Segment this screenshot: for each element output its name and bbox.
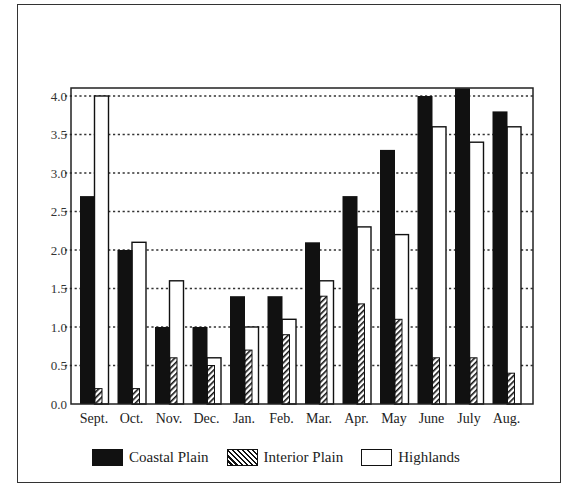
bar-coastal <box>493 111 508 404</box>
y-tick-label: 0.0 <box>51 397 67 412</box>
bar-highlands <box>95 96 109 404</box>
bar-group <box>305 242 334 404</box>
x-tick-label: May <box>381 411 407 426</box>
bar-group <box>80 96 109 404</box>
bar-highlands <box>132 242 146 404</box>
bar-interior <box>433 358 440 404</box>
x-axis-labels: Sept.Oct.Nov.Dec.Jan.Feb.Mar.Apr.MayJune… <box>80 411 521 426</box>
bar-interior <box>208 366 215 405</box>
bar-coastal <box>268 296 283 404</box>
bar-interior <box>283 335 290 404</box>
y-tick-label: 2.5 <box>51 204 67 219</box>
y-tick-label: 4.0 <box>51 89 67 104</box>
bar-coastal <box>305 242 320 404</box>
legend-swatch-highlands <box>361 449 392 466</box>
bar-coastal <box>455 88 470 404</box>
bar-group <box>155 281 184 404</box>
legend-item-highlands: Highlands <box>361 449 460 466</box>
bar-coastal <box>155 327 170 404</box>
legend-label-interior: Interior Plain <box>264 449 344 466</box>
x-tick-label: Aug. <box>493 411 521 426</box>
bar-interior <box>245 350 252 404</box>
x-tick-label: Feb. <box>269 411 294 426</box>
bar-group <box>418 96 447 404</box>
bar-highlands <box>507 127 521 404</box>
bar-interior <box>508 373 515 404</box>
bar-coastal <box>230 296 245 404</box>
x-tick-label: Oct. <box>120 411 144 426</box>
y-tick-label: 3.5 <box>51 127 67 142</box>
x-tick-label: Dec. <box>193 411 219 426</box>
bar-group <box>268 296 297 404</box>
legend-label-coastal: Coastal Plain <box>129 449 209 466</box>
x-tick-label: Sept. <box>80 411 108 426</box>
bar-coastal <box>343 196 358 404</box>
bar-group <box>230 296 259 404</box>
legend-item-coastal: Coastal Plain <box>92 449 209 466</box>
bar-group <box>380 150 409 404</box>
bar-interior <box>358 304 365 404</box>
bar-interior <box>133 389 140 404</box>
y-tick-label: 1.0 <box>51 320 67 335</box>
x-tick-label: Nov. <box>156 411 183 426</box>
x-tick-label: June <box>419 411 445 426</box>
x-tick-label: July <box>457 411 480 426</box>
bars <box>80 88 521 404</box>
x-tick-label: Jan. <box>233 411 255 426</box>
bar-coastal <box>80 196 95 404</box>
bar-group <box>493 111 522 404</box>
bar-interior <box>395 319 402 404</box>
bar-interior <box>95 389 102 404</box>
bar-group <box>118 242 147 404</box>
x-tick-label: Mar. <box>306 411 332 426</box>
bar-interior <box>170 358 177 404</box>
bar-group <box>455 88 484 404</box>
bar-interior <box>470 358 477 404</box>
bar-coastal <box>380 150 395 404</box>
legend-item-interior: Interior Plain <box>227 449 344 466</box>
y-tick-label: 1.5 <box>51 281 67 296</box>
bar-group <box>343 196 372 404</box>
legend-swatch-coastal <box>92 449 123 466</box>
bar-chart: 0.00.51.01.52.02.53.03.54.0 Sept.Oct.Nov… <box>0 0 570 440</box>
legend-label-highlands: Highlands <box>398 449 460 466</box>
bar-coastal <box>118 250 133 404</box>
y-tick-label: 2.0 <box>51 243 67 258</box>
bar-group <box>193 327 222 404</box>
y-axis-ticks: 0.00.51.01.52.02.53.03.54.0 <box>51 89 67 412</box>
y-tick-label: 0.5 <box>51 358 67 373</box>
bar-coastal <box>418 96 433 404</box>
bar-interior <box>320 296 327 404</box>
legend: Coastal Plain Interior Plain Highlands <box>92 448 478 467</box>
legend-swatch-interior <box>227 449 258 466</box>
bar-coastal <box>193 327 208 404</box>
y-tick-label: 3.0 <box>51 166 67 181</box>
x-tick-label: Apr. <box>344 411 369 426</box>
